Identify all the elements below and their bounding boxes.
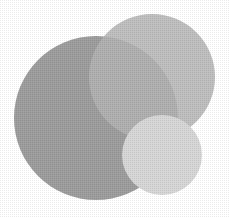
circles-illustration [0, 0, 230, 217]
halftone-texture [0, 0, 230, 217]
